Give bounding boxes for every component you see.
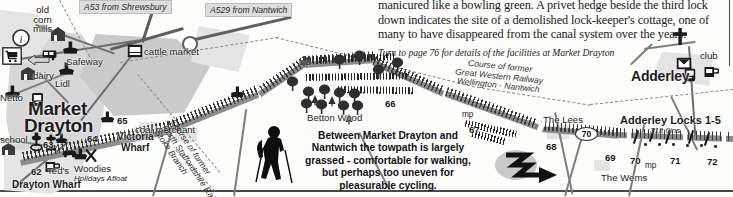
bridge-oval-marker-70: 70 xyxy=(575,127,598,141)
lock-dot-3 xyxy=(672,143,675,146)
lock-dot-5 xyxy=(700,144,703,147)
milepost-label-3: mp xyxy=(645,161,656,170)
drayton-wharf-label: Drayton Wharf xyxy=(12,179,81,190)
shopping-trolley-icon[interactable] xyxy=(2,47,22,65)
article-line-1: manicured like a bowling green. A privet… xyxy=(378,0,730,13)
netto-label: Netto xyxy=(0,92,23,103)
old-corn-mills-text: old corn mills xyxy=(33,4,52,34)
milepost-label-2: mp xyxy=(462,110,473,119)
shrub-2 xyxy=(328,93,336,111)
towpath-caption: Between Market Drayton and Nantwich the … xyxy=(282,130,494,192)
safeway-label: Safeway xyxy=(66,56,103,67)
restaurant-icon xyxy=(84,148,98,163)
bridge-number-71: 71 xyxy=(670,155,681,166)
bridge-number-72: 72 xyxy=(707,156,718,167)
tree-11 xyxy=(391,57,404,77)
tree-1 xyxy=(286,76,299,96)
woodies-label: Woodies xyxy=(74,163,111,174)
bridge-number-69: 69 xyxy=(605,152,616,163)
bridge-number-68: 68 xyxy=(546,141,557,152)
bridge-number-63: 63 xyxy=(43,139,54,150)
mill-building-icon xyxy=(50,26,66,42)
bridge-gap-71 xyxy=(683,130,687,142)
tree-12 xyxy=(333,54,346,74)
cattle-market-label: cattle market xyxy=(144,46,199,57)
woodies-holidays-afloat-label: Holidays Afloat xyxy=(74,174,127,183)
a53-from-shrewsbury-label: A53 from Shrewsbury xyxy=(79,0,172,14)
lock-dot-2 xyxy=(658,143,661,146)
svg-text:i: i xyxy=(19,33,22,45)
school-label: school xyxy=(0,134,28,145)
bridge-gap-72 xyxy=(722,131,726,143)
bridge-gap-69 xyxy=(627,128,631,140)
betton-wood-label: Betton Wood xyxy=(307,112,362,123)
the-wems-label: The Wems xyxy=(601,172,647,183)
old-corn-mills-label: old corn mills xyxy=(33,5,52,34)
map-page: manicured like a bowling green. A privet… xyxy=(0,0,733,197)
caption-line-4: but perhaps too uneven for xyxy=(282,167,494,179)
caption-line-2: Nantwich the towpath is largely xyxy=(282,142,494,154)
a529-from-nantwich-label: A529 from Nantwich xyxy=(205,3,292,17)
windlass-icon-victoria-wharf xyxy=(100,111,115,125)
lock-dot-6 xyxy=(714,145,717,148)
public-house-icon-adderley xyxy=(703,65,719,79)
club-label: club xyxy=(700,50,718,61)
windlass-icon-safeway xyxy=(62,41,79,57)
cattle-market-icon xyxy=(127,44,143,58)
bridge-number-65: 65 xyxy=(117,115,128,126)
adderley-locks-label: Adderley Locks 1-5 xyxy=(620,114,721,126)
tree-10 xyxy=(372,64,385,84)
shrub-1 xyxy=(311,92,319,110)
dairy-label: dairy xyxy=(33,70,54,81)
lidl-label: Lidl xyxy=(55,78,70,89)
church-icon xyxy=(672,28,688,46)
off-map-arrow-icon xyxy=(28,54,50,66)
victoria-wharf-label-line2: Wharf xyxy=(121,142,149,153)
caption-line-5: pleasurable cycling. xyxy=(282,180,494,192)
bridge-number-70: 70 xyxy=(630,155,641,166)
teds-label: Ted's xyxy=(47,165,69,176)
place-label-market-drayton-line2: Drayton xyxy=(24,117,93,135)
caption-line-1: Between Market Drayton and xyxy=(282,130,494,142)
tree-13 xyxy=(353,50,366,70)
the-lees-label: The Lees xyxy=(543,114,583,125)
article-line-2: down indicates the site of a demolished … xyxy=(378,13,730,28)
flow-arrow-icon xyxy=(494,148,566,188)
milepost-label-1: mp xyxy=(299,58,310,67)
bridge-number-64: 64 xyxy=(87,133,98,144)
windlass-icon-betton xyxy=(230,86,245,101)
lock-dot-1 xyxy=(644,143,647,146)
place-label-adderley: Adderley xyxy=(631,68,689,84)
column-rule xyxy=(729,0,730,66)
bridge-number-62: 62 xyxy=(31,166,42,177)
caption-line-3: grassed - comfortable for walking, xyxy=(282,155,494,167)
information-icon[interactable]: i xyxy=(12,29,30,47)
bridge-number-66: 66 xyxy=(385,98,396,109)
lock-dot-4 xyxy=(686,144,689,147)
car-park-icon xyxy=(61,148,78,158)
adderley-locks-rise-label: 31ft 0ins xyxy=(650,126,680,135)
